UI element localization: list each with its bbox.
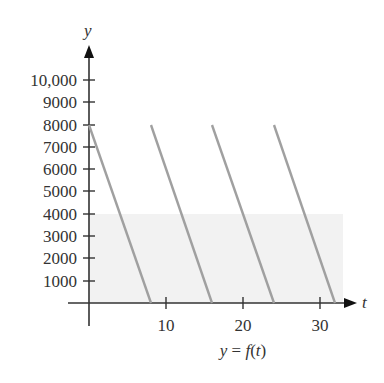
x-tick-labels: 10 20 30 <box>158 316 329 335</box>
svg-text:9000: 9000 <box>43 93 77 112</box>
y-axis-arrow-icon <box>84 45 94 58</box>
svg-text:8000: 8000 <box>43 116 77 135</box>
svg-text:5000: 5000 <box>43 182 77 201</box>
y-axis-label: y <box>82 21 92 40</box>
svg-text:30: 30 <box>312 316 329 335</box>
shaded-band <box>89 214 343 303</box>
x-axis-arrow-icon <box>344 298 357 308</box>
svg-text:4000: 4000 <box>43 205 77 224</box>
chart: y t 1000 2000 3000 4000 5000 6000 7000 8… <box>0 0 384 383</box>
y-tick-labels: 1000 2000 3000 4000 5000 6000 7000 8000 … <box>30 71 77 291</box>
svg-text:10: 10 <box>158 316 175 335</box>
svg-text:20: 20 <box>235 316 252 335</box>
svg-text:6000: 6000 <box>43 160 77 179</box>
svg-text:10,000: 10,000 <box>30 71 77 90</box>
svg-text:2000: 2000 <box>43 249 77 268</box>
x-axis-label: t <box>362 293 368 312</box>
svg-text:3000: 3000 <box>43 227 77 246</box>
svg-text:1000: 1000 <box>43 272 77 291</box>
svg-text:7000: 7000 <box>43 138 77 157</box>
chart-caption: y = f(t) <box>218 341 266 360</box>
